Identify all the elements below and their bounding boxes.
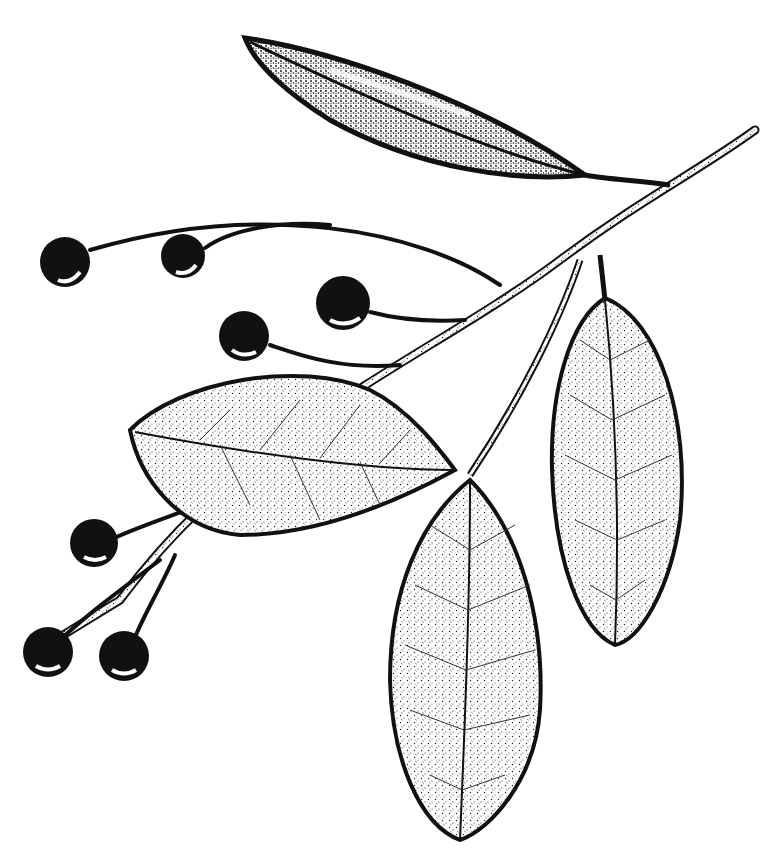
- leaf-bottom: [390, 480, 541, 840]
- leaf-right: [552, 298, 682, 645]
- leaf-middle: [130, 376, 455, 535]
- botanical-illustration: Pen-and-ink botanical illustration of a …: [0, 0, 779, 867]
- leaf-top: [245, 38, 585, 177]
- berry: [99, 631, 149, 681]
- berry: [316, 276, 370, 330]
- berry: [23, 627, 73, 677]
- berry: [40, 237, 90, 287]
- berry: [70, 519, 118, 567]
- berry: [161, 234, 205, 278]
- berry: [219, 311, 269, 361]
